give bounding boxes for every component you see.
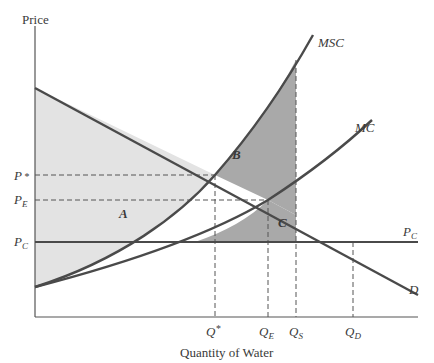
q-s-label: QS	[289, 324, 303, 341]
region-c-label: C	[278, 215, 287, 230]
q-star-label: Q*	[206, 323, 220, 339]
q-star-sup: *	[215, 323, 220, 334]
p-c-label: PC	[13, 234, 29, 251]
p-star-p: P	[13, 168, 22, 183]
q-e-label: QE	[259, 324, 274, 341]
region-a-shading	[35, 88, 215, 287]
q-d-label: QD	[345, 324, 361, 341]
y-axis-label: Price	[22, 12, 49, 27]
p-e-label: PE	[13, 192, 28, 209]
region-a-label: A	[118, 206, 128, 221]
water-pricing-diagram: Price Quantity of Water MSC MC D PC P* P…	[0, 0, 434, 363]
pc-right-sub: C	[411, 231, 418, 241]
q-s-sub: S	[298, 331, 303, 341]
msc-label: MSC	[317, 35, 344, 50]
q-d-sub: D	[353, 331, 361, 341]
mc-label: MC	[354, 120, 375, 135]
q-e-sub: E	[267, 331, 274, 341]
pc-right-label: PC	[402, 224, 418, 241]
pc-right-p: P	[402, 224, 411, 239]
region-b-label: B	[231, 147, 241, 162]
p-c-sub: C	[22, 241, 29, 251]
d-label: D	[408, 282, 419, 297]
p-star-sup: *	[24, 171, 29, 182]
p-e-p: P	[13, 192, 22, 207]
p-e-sub: E	[21, 199, 28, 209]
p-c-p: P	[13, 234, 22, 249]
x-axis-label: Quantity of Water	[180, 345, 274, 360]
p-star-label: P*	[13, 168, 29, 183]
